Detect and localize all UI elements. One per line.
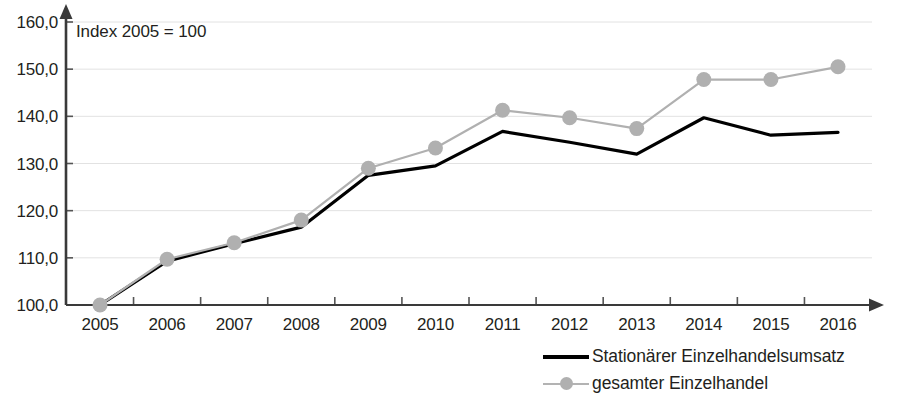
legend-item-stationaerer: Stationärer Einzelhandelsumsatz bbox=[540, 343, 898, 370]
x-tick-label: 2011 bbox=[467, 316, 539, 333]
x-tick-label: 2007 bbox=[198, 316, 270, 333]
x-tick-label: 2016 bbox=[802, 316, 874, 333]
chart-figure: 100,0110,0120,0130,0140,0150,0160,0 2005… bbox=[0, 0, 898, 399]
x-tick-label: 2009 bbox=[332, 316, 404, 333]
x-tick-label: 2006 bbox=[131, 316, 203, 333]
x-tick-label: 2014 bbox=[668, 316, 740, 333]
x-tick-label: 2013 bbox=[601, 316, 673, 333]
legend-item-gesamter: gesamter Einzelhandel bbox=[540, 370, 898, 397]
x-tick-label: 2015 bbox=[735, 316, 807, 333]
legend-marker-swatch-icon bbox=[540, 374, 592, 394]
chart-legend: Stationärer Einzelhandelsumsatz gesamter… bbox=[540, 343, 898, 397]
legend-label-stationaerer: Stationärer Einzelhandelsumsatz bbox=[592, 346, 845, 367]
x-tick-label: 2012 bbox=[534, 316, 606, 333]
index-base-note: Index 2005 = 100 bbox=[76, 22, 206, 42]
x-tick-label: 2005 bbox=[64, 316, 136, 333]
legend-line-swatch-icon bbox=[540, 347, 592, 367]
x-tick-label: 2008 bbox=[265, 316, 337, 333]
legend-label-gesamter: gesamter Einzelhandel bbox=[592, 373, 768, 394]
x-tick-label: 2010 bbox=[399, 316, 471, 333]
x-axis-tick-labels: 2005200620072008200920102011201220132014… bbox=[0, 0, 898, 340]
chart-plot-area: 100,0110,0120,0130,0140,0150,0160,0 2005… bbox=[0, 0, 898, 340]
